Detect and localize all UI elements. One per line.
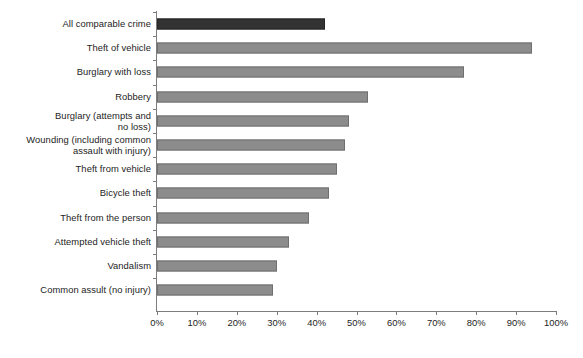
y-axis-tick	[153, 133, 157, 134]
chart-row: Burglary with loss	[157, 60, 556, 84]
chart-row: Attempted vehicle theft	[157, 230, 556, 254]
bar	[157, 67, 464, 78]
bar	[157, 164, 337, 175]
x-axis-tick-label: 70%	[427, 317, 446, 328]
bar	[157, 236, 289, 247]
chart-row: Common assult (no injury)	[157, 278, 556, 302]
bar	[157, 285, 273, 296]
bar-chart: All comparable crimeTheft of vehicleBurg…	[0, 0, 583, 358]
category-label: Wounding (including commonassault with i…	[0, 134, 151, 156]
bar	[157, 43, 532, 54]
category-label: Vandalism	[107, 260, 151, 271]
category-label: Bicycle theft	[100, 188, 151, 199]
y-axis-tick	[153, 254, 157, 255]
x-axis-tick-label: 100%	[544, 317, 568, 328]
chart-row: Bicycle theft	[157, 181, 556, 205]
category-label: Common assult (no injury)	[40, 285, 151, 296]
x-axis-tick	[436, 311, 437, 315]
chart-row: Theft of vehicle	[157, 36, 556, 60]
category-label: Burglary (attempts andno loss)	[0, 110, 151, 132]
plot-area: All comparable crimeTheft of vehicleBurg…	[157, 12, 556, 310]
x-axis-tick	[237, 311, 238, 315]
y-axis-tick	[153, 12, 157, 13]
bar	[157, 91, 368, 102]
category-label: Attempted vehicle theft	[54, 236, 151, 247]
y-axis-tick	[153, 230, 157, 231]
x-axis-tick	[357, 311, 358, 315]
x-axis-tick-label: 30%	[267, 317, 286, 328]
x-axis-tick	[516, 311, 517, 315]
bar	[157, 115, 349, 126]
category-label: Theft of vehicle	[87, 43, 151, 54]
y-axis-tick	[153, 60, 157, 61]
y-axis-tick	[153, 36, 157, 37]
category-label: Burglary with loss	[77, 67, 151, 78]
bar	[157, 261, 277, 272]
chart-row: Vandalism	[157, 254, 556, 278]
x-axis-tick	[476, 311, 477, 315]
category-label: All comparable crime	[62, 18, 151, 29]
x-axis-tick-label: 50%	[347, 317, 366, 328]
y-axis-tick	[153, 181, 157, 182]
x-axis-tick	[157, 311, 158, 315]
x-axis-tick	[197, 311, 198, 315]
x-axis-tick-label: 80%	[467, 317, 486, 328]
y-axis-tick	[153, 278, 157, 279]
bar	[157, 188, 329, 199]
chart-row: Theft from the person	[157, 206, 556, 230]
chart-row: Robbery	[157, 85, 556, 109]
bar	[157, 140, 345, 151]
chart-row: Wounding (including commonassault with i…	[157, 133, 556, 157]
x-axis-tick-label: 0%	[150, 317, 164, 328]
chart-row: Burglary (attempts andno loss)	[157, 109, 556, 133]
x-axis-tick	[277, 311, 278, 315]
x-axis-tick	[317, 311, 318, 315]
category-label: Theft from the person	[60, 212, 151, 223]
chart-row: All comparable crime	[157, 12, 556, 36]
category-label: Robbery	[115, 91, 151, 102]
x-axis-tick	[396, 311, 397, 315]
y-axis-tick	[153, 157, 157, 158]
bar	[157, 212, 309, 223]
x-axis-tick-label: 10%	[188, 317, 207, 328]
y-axis-tick	[153, 85, 157, 86]
category-label: Theft from vehicle	[76, 164, 151, 175]
x-axis-tick-label: 60%	[387, 317, 406, 328]
x-axis-tick	[556, 311, 557, 315]
x-axis-tick-label: 20%	[227, 317, 246, 328]
chart-row: Theft from vehicle	[157, 157, 556, 181]
y-axis-tick	[153, 109, 157, 110]
x-axis-tick-label: 40%	[307, 317, 326, 328]
y-axis-tick	[153, 206, 157, 207]
x-axis-tick-label: 90%	[507, 317, 526, 328]
bar	[157, 19, 325, 30]
